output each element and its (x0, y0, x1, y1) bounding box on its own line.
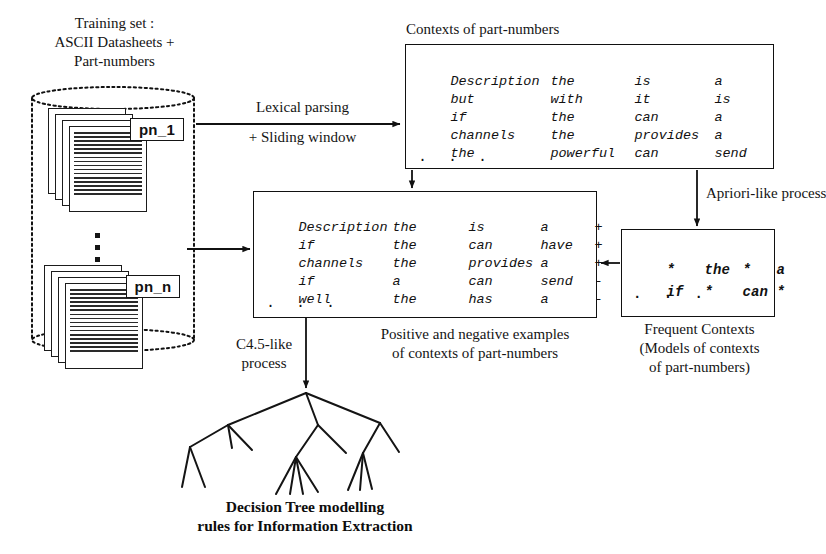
example-class: - (594, 273, 602, 291)
example-cell: a (392, 273, 468, 291)
frequent-cell: can (743, 281, 777, 303)
context-cell: is (634, 73, 714, 91)
example-cell: the (392, 255, 468, 273)
context-cell: a (714, 127, 722, 145)
context-cell: is (714, 91, 730, 109)
context-cell: can (634, 145, 714, 163)
frequent-cell: * (777, 281, 785, 303)
decision-tree-caption: Decision Tree modelling rules for Inform… (140, 497, 470, 535)
frequent-row: *the*a (633, 237, 785, 259)
example-cell: provides (468, 255, 540, 273)
context-cell: it (634, 91, 714, 109)
arrow-label-apriori: Apriori-like process (706, 184, 816, 203)
example-cell: has (468, 291, 540, 309)
context-cell: if (450, 109, 550, 127)
frequent-cell: * (705, 281, 743, 303)
example-cell: can (468, 237, 540, 255)
decision-tree-graphic (182, 393, 399, 494)
context-cell: the (550, 73, 634, 91)
example-cell: channels (298, 255, 392, 273)
example-class: + (594, 255, 602, 273)
frequent-contexts-caption: Frequent Contexts (Models of contexts of… (612, 320, 787, 377)
example-class: + (594, 219, 602, 237)
context-cell: provides (634, 127, 714, 145)
part-number-label-last: pn_n (126, 275, 180, 298)
example-cell: have (540, 237, 594, 255)
document-text-lines (70, 289, 138, 364)
example-class: - (594, 291, 602, 309)
context-cell: can (634, 109, 714, 127)
document-text-lines (74, 132, 142, 207)
contexts-box-grid: Descriptiontheisa butwithitis ifthecana … (418, 55, 747, 167)
example-cell: is (468, 219, 540, 237)
example-cell: the (392, 219, 468, 237)
context-cell: Description (450, 73, 550, 91)
context-cell: send (714, 145, 746, 163)
example-cell: the (392, 237, 468, 255)
frequent-cell: a (777, 259, 785, 281)
vertical-ellipsis-dot (95, 257, 100, 262)
examples-box-grid: Descriptiontheisa+ ifthecanhave+ channel… (266, 201, 603, 313)
examples-box-caption: Positive and negative examples of contex… (340, 325, 610, 363)
frequent-cell: * (743, 259, 777, 281)
training-set-caption: Training set : ASCII Datasheets + Part-n… (22, 14, 207, 71)
arrow-label-lexical-parsing: Lexical parsing (215, 98, 390, 117)
context-cell: channels (450, 127, 550, 145)
contexts-box-caption: Contexts of part-numbers (406, 20, 726, 39)
example-cell: if (298, 273, 392, 291)
arrow-label-sliding-window: + Sliding window (215, 128, 390, 147)
example-cell: can (468, 273, 540, 291)
context-cell: with (550, 91, 634, 109)
context-cell: but (450, 91, 550, 109)
example-cell: Description (298, 219, 392, 237)
example-cell: the (392, 291, 468, 309)
example-row: Descriptiontheisa+ (266, 201, 603, 219)
example-cell: a (540, 255, 594, 273)
context-cell: a (714, 109, 722, 127)
context-cell: the (550, 109, 634, 127)
arrow-label-c45: C4.5-like process (222, 335, 306, 373)
part-number-label-first: pn_1 (130, 118, 184, 141)
example-cell: if (298, 237, 392, 255)
frequent-contexts-grid: *the*a if*can* . . . (633, 237, 785, 305)
frequent-cell: the (705, 259, 743, 281)
example-class: + (594, 237, 602, 255)
context-cell: powerful (550, 145, 634, 163)
context-row: Descriptiontheisa (418, 55, 747, 73)
frequent-cell: * (667, 259, 705, 281)
example-cell: a (540, 219, 594, 237)
vertical-ellipsis-dot (95, 233, 100, 238)
vertical-ellipsis-dot (95, 245, 100, 250)
example-cell: a (540, 291, 594, 309)
context-cell: the (550, 127, 634, 145)
context-cell: a (714, 73, 722, 91)
example-cell: send (540, 273, 594, 291)
